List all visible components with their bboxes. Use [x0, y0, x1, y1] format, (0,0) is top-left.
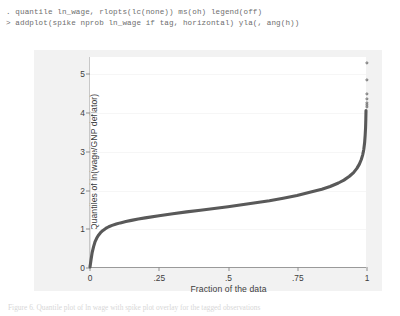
outlier-marker [365, 92, 368, 95]
outlier-marker [365, 79, 368, 82]
x-tick-label: .25 [153, 273, 165, 283]
plot-frame: Quantiles of ln(wage/GNP deflator) Fract… [89, 57, 366, 268]
x-tick-mark [297, 267, 298, 271]
y-tick-label: 1 [80, 224, 85, 234]
y-tick-label: 5 [80, 69, 85, 79]
command-line-2: > addplot(spike nprob ln_wage if tag, ho… [6, 18, 400, 29]
stata-command-console: . quantile ln_wage, rlopts(lc(none)) ms(… [0, 0, 400, 29]
y-tick-label: 3 [80, 147, 85, 157]
quantile-curve [90, 111, 366, 267]
x-axis-title: Fraction of the data [90, 284, 367, 294]
x-tick-mark [367, 267, 368, 271]
x-tick-label: 1 [365, 273, 370, 283]
outlier-marker [365, 105, 368, 108]
graph-region: Quantiles of ln(wage/GNP deflator) Fract… [34, 50, 382, 291]
y-tick-label: 0 [80, 263, 85, 273]
figure-caption: Figure 6. Quantile plot of ln wage with … [8, 303, 398, 312]
quantile-curve-svg [90, 57, 366, 267]
x-tick-mark [228, 267, 229, 271]
y-tick-label: 4 [80, 108, 85, 118]
x-tick-mark [159, 267, 160, 271]
command-line-1: . quantile ln_wage, rlopts(lc(none)) ms(… [6, 7, 400, 18]
x-tick-label: .75 [292, 273, 304, 283]
x-tick-label: 0 [88, 273, 93, 283]
y-tick-label: 2 [80, 186, 85, 196]
x-tick-label: .5 [225, 273, 232, 283]
outlier-marker [365, 61, 368, 64]
